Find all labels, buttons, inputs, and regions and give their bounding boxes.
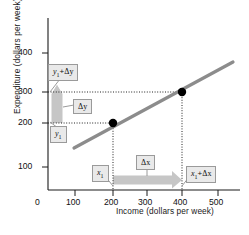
- data-point-2: [178, 88, 186, 96]
- x-tick-label-0: 0: [35, 197, 40, 207]
- y-axis-title: Expenditure (dollars per week): [12, 24, 22, 114]
- x-axis-ticks: [75, 190, 218, 196]
- delta-x-arrow: [113, 171, 182, 189]
- callout-x1: x1: [92, 165, 109, 182]
- y-tick-label-100: 100: [18, 161, 32, 171]
- callout-delta: Δx: [202, 169, 211, 178]
- x-tick-label-400: 400: [173, 197, 187, 207]
- callout-x1-plus-delta-x: x1+Δx: [186, 166, 216, 183]
- expenditure-line: [74, 62, 233, 148]
- x-axis-title: Income (dollars per week): [116, 206, 214, 216]
- callout-delta-y-text: Δy: [78, 102, 87, 111]
- callout-delta-x-text: Δx: [141, 158, 150, 167]
- x-tick-label-200: 200: [104, 197, 118, 207]
- x-tick-label-300: 300: [138, 197, 152, 207]
- delta-y-arrow: [52, 85, 63, 123]
- callout-y1-plus-delta-y: y1+Δy: [48, 64, 78, 81]
- data-point-1: [109, 119, 117, 127]
- callout-sub: 1: [101, 172, 104, 178]
- callout-delta-x: Δx: [136, 155, 155, 170]
- y-tick-label-400: 400: [18, 47, 32, 57]
- callout-delta-y: Δy: [73, 99, 92, 114]
- callout-delta: Δy: [64, 67, 73, 76]
- y-tick-label-200: 200: [18, 117, 32, 127]
- callout-y1: y1: [50, 126, 67, 143]
- x-tick-label-100: 100: [66, 197, 80, 207]
- x-tick-label-500: 500: [209, 197, 223, 207]
- callout-leaders: [50, 79, 189, 186]
- chart-figure: Expenditure (dollars per week) Income (d…: [0, 0, 249, 235]
- y-tick-label-300: 300: [18, 86, 32, 96]
- callout-sub: 1: [59, 133, 62, 139]
- guide-lines: [48, 92, 182, 190]
